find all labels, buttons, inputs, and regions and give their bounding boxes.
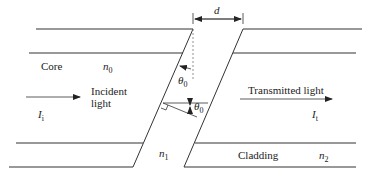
right-fiber: [184, 29, 362, 167]
incident-light-label-2: light: [91, 97, 111, 109]
n1-label: n1: [159, 147, 169, 162]
Ii-label: Ii: [37, 108, 45, 123]
theta0-bottom-label: θ0: [194, 100, 203, 115]
theta-top-arrow: [180, 66, 191, 69]
right-angle-mark: [161, 105, 168, 110]
core-label: Core: [41, 60, 63, 72]
fiber-gap-diagram: Core n0 θ0 θ0 Incident light Ii Transmit…: [0, 0, 374, 179]
incident-light-label-1: Incident: [91, 85, 127, 97]
cladding-label: Cladding: [238, 149, 279, 161]
transmitted-light-label: Transmitted light: [248, 84, 324, 96]
n0-label: n0: [103, 60, 113, 75]
n2-label: n2: [319, 149, 329, 164]
theta0-top-label: θ0: [178, 74, 187, 89]
It-label: It: [311, 108, 319, 123]
gap-d-label: d: [214, 4, 220, 16]
